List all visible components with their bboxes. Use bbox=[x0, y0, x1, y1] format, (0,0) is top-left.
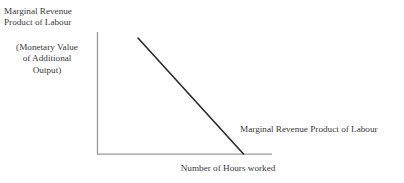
plot-area bbox=[0, 0, 404, 183]
x-axis-title: Number of Hours worked bbox=[148, 163, 308, 174]
series-label-mrpl: Marginal Revenue Product of Labour bbox=[240, 124, 378, 135]
mrpl-curve bbox=[138, 38, 244, 154]
mrpl-diagram: Marginal Revenue Product of Labour (Mone… bbox=[0, 0, 404, 183]
